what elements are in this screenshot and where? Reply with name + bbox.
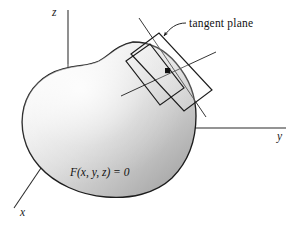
- figure-canvas: tangent plane z y x F(x, y, z) = 0: [0, 0, 297, 226]
- surface-equation-label: F(x, y, z) = 0: [69, 166, 130, 179]
- x-axis-label: x: [19, 206, 26, 218]
- callout-arrow-icon: [164, 23, 186, 36]
- y-axis-label: y: [276, 130, 283, 143]
- tangent-point-marker: [165, 68, 170, 73]
- z-axis-label: z: [51, 6, 57, 18]
- tangent-plane-label: tangent plane: [189, 17, 253, 30]
- callout-leader: [164, 23, 186, 36]
- tangent-plane-figure: tangent plane z y x F(x, y, z) = 0: [0, 0, 297, 226]
